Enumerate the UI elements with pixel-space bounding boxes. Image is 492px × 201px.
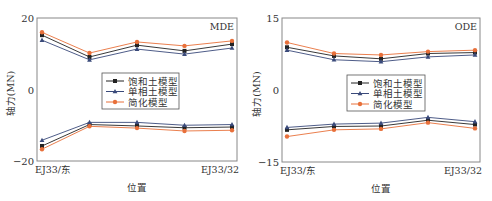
x-tick-label-start: EJ33/东 (280, 165, 316, 176)
data-point-triangle-marker (426, 115, 431, 119)
legend-label: 单相土模型 (373, 88, 423, 99)
panel-label: ODE (455, 21, 477, 32)
data-point-circle-marker (379, 127, 383, 131)
y-tick-label: 20 (21, 13, 34, 24)
legend-square-marker (113, 79, 117, 83)
y-axis-label: 轴力(MN) (5, 71, 16, 116)
x-tick-label-end: EJ33/32 (444, 165, 482, 176)
data-point-circle-marker (40, 147, 44, 151)
legend-square-marker (358, 81, 362, 85)
data-point-circle-marker (285, 134, 289, 138)
data-point-circle-marker (40, 30, 44, 34)
legend-label: 饱和土模型 (373, 78, 423, 89)
x-axis-label: 位置 (127, 182, 147, 193)
data-point-circle-marker (87, 51, 91, 55)
y-axis-label: 轴力(MN) (251, 71, 262, 116)
x-tick-label-start: EJ33/东 (35, 164, 71, 175)
legend-label: 简化模型 (373, 99, 413, 110)
data-point-circle-marker (473, 48, 477, 52)
y-tick-label: 15 (266, 13, 279, 24)
data-point-circle-marker (332, 51, 336, 55)
data-point-circle-marker (182, 44, 186, 48)
panel-label: MDE (210, 21, 234, 32)
legend-circle-marker (358, 102, 362, 106)
data-point-circle-marker (379, 53, 383, 57)
data-point-circle-marker (285, 40, 289, 44)
legend: 饱和土模型单相土模型简化模型 (347, 75, 425, 111)
data-point-circle-marker (135, 126, 139, 130)
legend-label: 单相土模型 (128, 86, 178, 97)
x-tick-label-end: EJ33/32 (201, 164, 239, 175)
data-point-circle-marker (135, 40, 139, 44)
data-point-circle-marker (87, 124, 91, 128)
data-point-circle-marker (473, 126, 477, 130)
data-point-triangle-marker (40, 38, 45, 42)
y-tick-label: −15 (258, 157, 279, 168)
legend-label: 饱和土模型 (128, 76, 178, 87)
y-tick-label: 0 (28, 85, 34, 96)
mde-axial-force-chart: 200−20EJ33/东EJ33/32位置轴力(MN)MDE饱和土模型单相土模型… (0, 0, 246, 201)
x-axis-label: 位置 (371, 183, 391, 194)
data-point-circle-marker (182, 129, 186, 133)
data-point-circle-marker (230, 39, 234, 43)
y-tick-label: −20 (13, 156, 34, 167)
y-tick-label: 0 (273, 85, 279, 96)
legend-circle-marker (113, 100, 117, 104)
legend-label: 简化模型 (128, 97, 168, 108)
data-point-circle-marker (426, 49, 430, 53)
legend: 饱和土模型单相土模型简化模型 (102, 73, 179, 109)
data-point-circle-marker (230, 128, 234, 132)
ode-axial-force-chart: 150−15EJ33/东EJ33/32位置轴力(MN)ODE饱和土模型单相土模型… (246, 0, 492, 201)
data-point-circle-marker (426, 120, 430, 124)
data-point-circle-marker (332, 128, 336, 132)
